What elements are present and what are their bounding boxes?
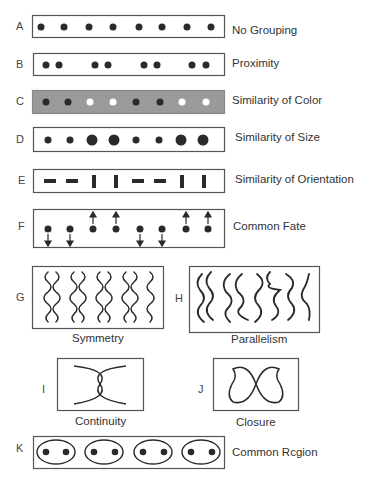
gestalt-diagram <box>0 0 370 483</box>
panel-d-box <box>34 128 225 152</box>
panel-f-box <box>34 210 225 248</box>
panel-c-box <box>33 91 225 114</box>
panel-e-box <box>34 170 225 193</box>
